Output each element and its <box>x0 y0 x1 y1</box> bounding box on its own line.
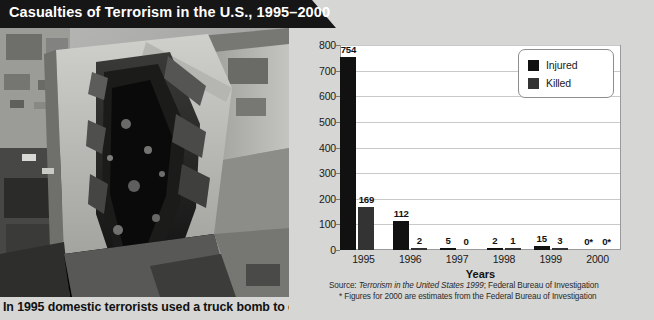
bar-value-label: 0* <box>594 236 620 247</box>
x-axis-tick-label: 1998 <box>481 253 528 265</box>
legend-label-killed: Killed <box>546 77 571 89</box>
photo-graphic <box>0 28 289 297</box>
page-title: Casualties of Terrorism in the U.S., 199… <box>9 4 330 20</box>
bar-killed-1998 <box>505 248 521 251</box>
bar-injured-1995 <box>340 57 356 250</box>
y-axis-tick-label: 100 <box>296 218 336 230</box>
y-axis-tick-mark <box>336 250 340 251</box>
y-axis-tick-label: 500 <box>296 116 336 128</box>
x-axis-tick-label: 1999 <box>527 253 574 265</box>
y-axis-tick-label: 0 <box>296 244 336 256</box>
bar-killed-1996 <box>411 248 427 251</box>
y-axis-tick-label: 200 <box>296 193 336 205</box>
y-axis-tick-label: 800 <box>296 39 336 51</box>
legend-item-killed: Killed <box>528 74 613 92</box>
source-title-italic: Terrorism in the United States 1999 <box>359 281 484 290</box>
bar-killed-1995 <box>358 207 374 250</box>
legend-swatch-killed <box>528 78 539 89</box>
y-axis-tick-label: 300 <box>296 167 336 179</box>
bar-value-label: 1 <box>500 235 526 246</box>
bar-injured-1997 <box>440 248 456 251</box>
x-axis-tick-label: 1997 <box>434 253 481 265</box>
source-note: Source: Terrorism in the United States 1… <box>329 280 654 302</box>
legend-swatch-injured <box>528 60 539 71</box>
bar-value-label: 754 <box>335 44 361 55</box>
legend-item-injured: Injured <box>528 56 613 74</box>
y-axis-tick-label: 700 <box>296 65 336 77</box>
bar-value-label: 169 <box>353 194 379 205</box>
bar-killed-1999 <box>552 248 568 251</box>
casualties-bar-chart: 0100200300400500600700800 75416911225021… <box>289 28 654 320</box>
x-axis-tick-label: 1996 <box>387 253 434 265</box>
infographic-root: Casualties of Terrorism in the U.S., 199… <box>0 0 654 320</box>
bar-injured-1999 <box>534 246 550 250</box>
y-axis-tick-label: 400 <box>296 142 336 154</box>
x-axis-title: Years <box>340 268 621 280</box>
source-suffix: ; Federal Bureau of Investigation <box>484 281 599 290</box>
y-axis-tick-label: 600 <box>296 90 336 102</box>
bar-value-label: 3 <box>547 235 573 246</box>
source-footnote: * Figures for 2000 are estimates from th… <box>329 291 654 302</box>
bar-value-label: 2 <box>406 235 432 246</box>
x-axis-tick-label: 2000 <box>574 253 621 265</box>
bombed-building-photo <box>0 28 289 297</box>
chart-legend: Injured Killed <box>518 49 614 98</box>
bar-injured-1998 <box>487 248 503 251</box>
source-prefix: Source: <box>329 281 359 290</box>
x-axis-tick-label: 1995 <box>340 253 387 265</box>
bar-value-label: 0 <box>453 236 479 247</box>
bar-value-label: 112 <box>388 208 414 219</box>
legend-label-injured: Injured <box>546 59 577 71</box>
